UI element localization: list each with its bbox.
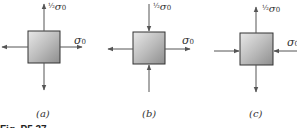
sigma-a-h: σ [74,34,82,47]
sub-b-h: 0 [190,38,194,46]
label-sub-b: 0 [167,4,171,12]
label-coef-c: ½ [262,4,269,12]
figure-label: Fig. P5.37 [0,124,47,128]
panel-c [214,7,297,92]
label-sub-c: 0 [276,6,280,14]
label-sigma-a: σ [55,1,62,12]
label-horizontal-a: σ0 [74,34,86,47]
sub-c-h: 0 [295,40,297,48]
caption-b: (b) [142,108,156,119]
caption-a: (a) [36,108,50,119]
stress-element-a [28,31,60,63]
label-sigma-c: σ [269,3,276,14]
label-vertical-c: ½σ0 [262,3,280,14]
label-horizontal-b: σ0 [182,34,194,47]
caption-c: (c) [249,108,262,119]
label-vertical-a: ½σ0 [48,1,66,12]
panel-a [2,4,82,90]
label-vertical-b: ½σ0 [153,1,171,12]
sigma-b-h: σ [182,34,190,47]
sub-a-h: 0 [82,38,86,46]
stress-element-b [133,32,165,64]
label-coef-a: ½ [48,2,55,10]
panel-b [108,4,190,92]
stress-element-c [240,33,273,65]
label-horizontal-c: σ0 [287,36,297,49]
label-sub-a: 0 [62,4,66,12]
label-coef-b: ½ [153,2,160,10]
label-sigma-b: σ [160,1,167,12]
sigma-c-h: σ [287,36,295,49]
